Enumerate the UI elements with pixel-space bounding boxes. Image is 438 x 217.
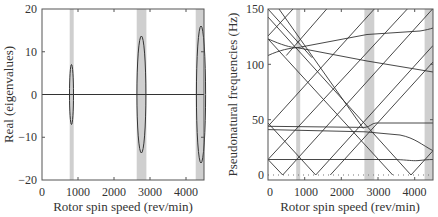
y-tick-label: 100 [246,58,264,72]
x-tick-label: 0 [39,185,45,199]
x-tick-label: 1000 [66,185,90,199]
y-tick-label: −10 [18,130,37,144]
x-axis-label: Rotor spin speed (rev/min) [280,199,420,214]
y-tick-label: 20 [25,2,37,16]
y-tick-label: 150 [246,2,264,16]
frequency-curves [268,9,433,176]
y-axis-label: Real (eigenvalues) [1,46,16,143]
x-ticks [305,9,415,180]
band-3 [425,9,433,180]
y-tick-label: 0 [258,168,264,182]
x-tick-label: 3000 [367,185,391,199]
x-tick-label: 3000 [138,185,162,199]
y-tick-label: −20 [18,173,37,187]
x-tick-label: 4000 [174,185,198,199]
right-chart: 150 100 50 0 0 1000 2000 3000 4000 Rotor… [225,2,433,214]
x-tick-label: 4000 [403,185,427,199]
x-tick-label: 0 [267,185,273,199]
y-tick-label: 50 [252,113,264,127]
figure: 20 10 0 −10 −20 0 1000 2000 3000 4000 Ro… [0,0,438,217]
x-axis-label: Rotor spin speed (rev/min) [53,199,193,214]
y-axis-label: Pseudonatural frequencies (Hz) [225,13,240,177]
x-tick-label: 2000 [330,185,354,199]
left-chart: 20 10 0 −10 −20 0 1000 2000 3000 4000 Ro… [1,2,206,214]
x-tick-label: 1000 [294,185,318,199]
y-tick-label: 10 [25,45,37,59]
x-tick-label: 2000 [102,185,126,199]
y-tick-label: 0 [31,88,37,102]
